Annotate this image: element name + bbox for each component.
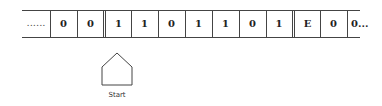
tape-cell: 0: [320, 10, 347, 38]
tape-cell: 0: [158, 10, 185, 38]
start-label: Start: [102, 91, 132, 99]
tape-cell: 1: [185, 10, 212, 38]
tape-cell-start: 1: [106, 10, 131, 38]
read-head-pentagon-icon: [101, 52, 133, 86]
tape-cell: 1: [212, 10, 239, 38]
tape-cell: 0: [50, 10, 77, 38]
tape-cell: 0: [77, 10, 104, 38]
tape-cell-continuation: 0...: [347, 10, 375, 38]
tape-cell: 1: [131, 10, 158, 38]
tape-cell: 0: [239, 10, 266, 38]
tape-cell: 1: [266, 10, 292, 38]
tape-left-ellipsis: ......: [22, 10, 50, 38]
tape-cell-end-marker: E: [295, 10, 320, 38]
turing-tape: ...... 0 0 1 1 0 1 1 0 1 E 0 0...: [22, 10, 360, 38]
